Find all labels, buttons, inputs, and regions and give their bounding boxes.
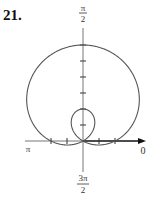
label-pi-over-2-den: 2: [81, 14, 86, 24]
label-3pi-over-2-num: 3π: [78, 173, 88, 183]
label-3pi-over-2-den: 2: [81, 185, 86, 195]
polar-graph: π 2 3π 2 π 0: [0, 0, 149, 203]
label-zero: 0: [141, 145, 146, 156]
label-pi-over-2-num: π: [81, 3, 86, 13]
arrow-right-icon: [138, 138, 146, 144]
label-pi: π: [26, 144, 31, 154]
